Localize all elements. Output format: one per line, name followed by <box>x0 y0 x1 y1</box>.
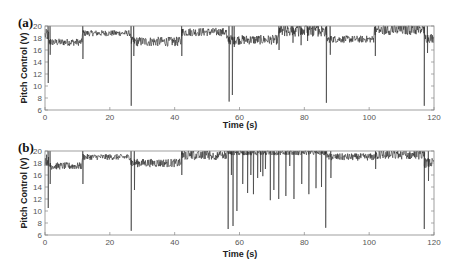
y-tick-label: 14 <box>33 183 42 192</box>
y-tick-label: 6 <box>38 106 43 115</box>
x-tick-label: 80 <box>300 113 309 122</box>
x-tick-label: 60 <box>235 113 244 122</box>
y-tick-label: 10 <box>33 82 42 91</box>
y-tick-label: 16 <box>33 46 42 55</box>
x-tick-label: 120 <box>427 113 441 122</box>
x-tick-label: 100 <box>362 113 376 122</box>
y-axis-title-b: Pitch Control (V) <box>19 158 29 229</box>
y-tick-label: 8 <box>38 219 43 228</box>
x-tick-label: 120 <box>427 238 441 247</box>
panel-label-a: (a) <box>18 15 33 30</box>
panel-a: (a) Pitch Control (V) Time (s) 020406080… <box>18 15 441 130</box>
x-tick-label: 20 <box>105 113 114 122</box>
y-tick-label: 14 <box>33 58 42 67</box>
panel-b: (b) Pitch Control (V) Time (s) 020406080… <box>18 140 441 259</box>
x-tick-label: 100 <box>362 238 376 247</box>
trace-line-b <box>45 151 434 231</box>
x-tick-label: 20 <box>105 238 114 247</box>
y-tick-label: 8 <box>38 94 43 103</box>
y-tick-label: 12 <box>33 70 42 79</box>
pitch-control-figure: (a) Pitch Control (V) Time (s) 020406080… <box>0 0 459 271</box>
x-tick-label: 80 <box>300 238 309 247</box>
x-tick-label: 40 <box>170 113 179 122</box>
y-tick-label: 12 <box>33 195 42 204</box>
x-tick-label: 0 <box>43 238 48 247</box>
x-tick-label: 40 <box>170 238 179 247</box>
panel-label-b: (b) <box>18 140 34 155</box>
x-axis-title-b: Time (s) <box>223 249 257 259</box>
y-tick-label: 18 <box>33 159 42 168</box>
x-tick-label: 0 <box>43 113 48 122</box>
axis-ticks-a: 02040608010012068101214161820 <box>33 22 441 122</box>
y-tick-label: 20 <box>33 22 42 31</box>
y-tick-label: 10 <box>33 207 42 216</box>
y-axis-title-a: Pitch Control (V) <box>19 33 29 104</box>
y-tick-label: 16 <box>33 171 42 180</box>
y-tick-label: 18 <box>33 34 42 43</box>
y-tick-label: 6 <box>38 231 43 240</box>
y-tick-label: 20 <box>33 147 42 156</box>
x-tick-label: 60 <box>235 238 244 247</box>
trace-line-a <box>45 26 434 106</box>
